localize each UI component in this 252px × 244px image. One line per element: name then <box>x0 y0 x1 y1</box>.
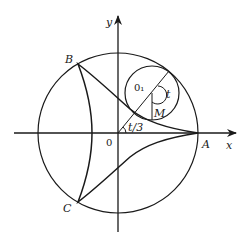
point-o1-label: 0₁ <box>134 82 144 93</box>
point-a-label: A <box>201 138 210 151</box>
angle-t3-label: t/3 <box>128 121 143 134</box>
origin-label: 0 <box>106 137 112 148</box>
diagram-canvas: y x 0 A B C 0₁ M t t/3 <box>0 0 252 244</box>
x-axis-label: x <box>226 139 233 152</box>
point-b-label: B <box>64 53 73 66</box>
angle-t-label: t <box>166 88 171 101</box>
point-c-label: C <box>63 202 72 215</box>
angle-arc-t3 <box>123 127 126 133</box>
radius-line <box>118 71 169 133</box>
y-axis-label: y <box>105 16 113 29</box>
point-m-label: M <box>153 107 166 120</box>
